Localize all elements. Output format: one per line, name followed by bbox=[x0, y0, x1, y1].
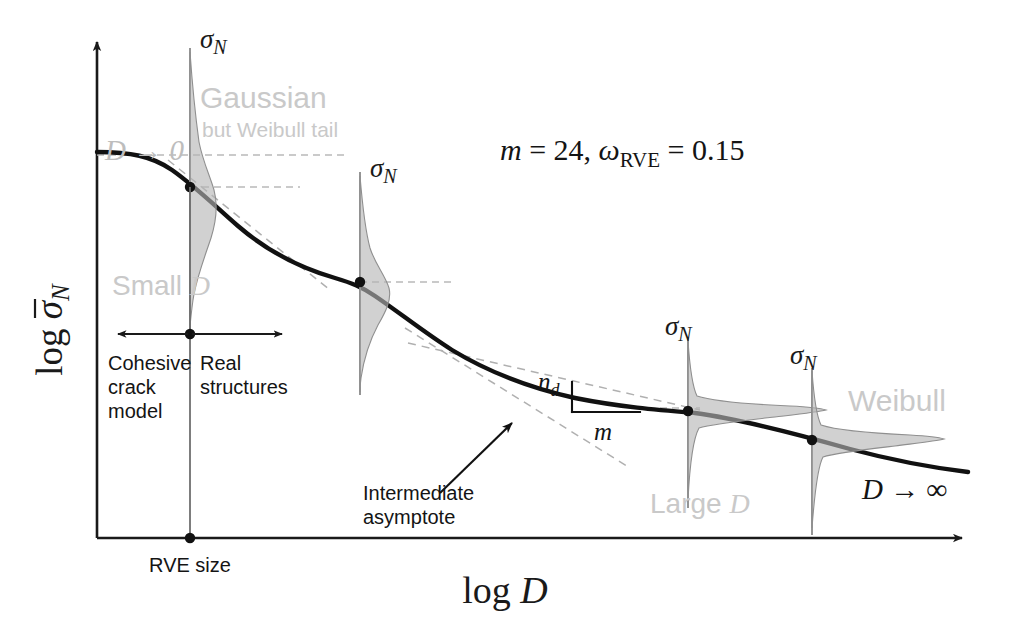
distribution-1-sigma-label: σN bbox=[200, 24, 228, 58]
small-d-label-symbol: D bbox=[189, 270, 210, 301]
dist4-sigma-sub: N bbox=[802, 352, 818, 374]
axes-group bbox=[97, 42, 962, 538]
cohesive-crack-model-line1: Cohesive bbox=[108, 352, 191, 374]
dist1-sigma-sub: N bbox=[212, 36, 228, 58]
rve-size-label: RVE size bbox=[149, 554, 231, 576]
real-structures-line2: structures bbox=[200, 376, 288, 398]
param-omega-symbol: ω bbox=[599, 133, 620, 166]
param-comma: , bbox=[584, 133, 592, 166]
intermediate-asymptote-label-line1: Intermediate bbox=[363, 482, 474, 504]
asymptotes-group bbox=[168, 160, 700, 468]
figure-canvas: log σN log D RVE size D → 0 D → ∞ Gaussi… bbox=[0, 0, 1017, 635]
intermediate-asymptote-line bbox=[405, 328, 630, 468]
size-effect-figure: log σN log D RVE size D → 0 D → ∞ Gaussi… bbox=[0, 0, 1017, 635]
large-d-label-text: Large bbox=[650, 488, 722, 519]
distribution-2-mean-dot bbox=[355, 277, 365, 287]
weibull-label: Weibull bbox=[848, 384, 946, 417]
y-axis-label-sigma-sub: N bbox=[47, 283, 74, 302]
x-axis-label: log D bbox=[462, 569, 548, 611]
y-axis-label-text: log σN bbox=[29, 283, 74, 376]
slope-rise-label: nd bbox=[538, 368, 561, 400]
x-axis-label-d: D bbox=[519, 569, 547, 611]
large-d-label: Large D bbox=[650, 488, 750, 519]
cohesive-crack-model-line2: crack bbox=[108, 376, 157, 398]
distribution-2-sigma-label: σN bbox=[370, 153, 398, 187]
gaussian-label-line1: Gaussian bbox=[200, 81, 327, 114]
param-eq1: = bbox=[529, 133, 546, 166]
cohesive-crack-model-line3: model bbox=[108, 400, 162, 422]
distribution-3-sigma-label: σN bbox=[665, 311, 693, 345]
real-structures-line1: Real bbox=[200, 352, 241, 374]
dist3-sigma-sub: N bbox=[677, 323, 693, 345]
small-limit-label: D → 0 bbox=[104, 134, 184, 166]
distribution-4-sigma-label: σN bbox=[790, 340, 818, 374]
intermediate-asymptote-label-line2: asymptote bbox=[363, 506, 455, 528]
y-axis-label: log σN bbox=[29, 283, 74, 376]
small-d-label: Small D bbox=[112, 270, 210, 301]
distribution-4-mean-dot bbox=[807, 435, 817, 445]
slope-run-label: m bbox=[594, 418, 612, 445]
dist2-sigma-sub: N bbox=[382, 165, 398, 187]
distribution-2-group bbox=[355, 172, 390, 395]
slope-rise-symbol: n bbox=[538, 368, 551, 395]
parameter-annotation: m = 24, ωRVE = 0.15 bbox=[500, 133, 745, 172]
distribution-3-mean-dot bbox=[683, 406, 693, 416]
size-effect-curve bbox=[97, 152, 968, 472]
param-m-value: 24 bbox=[554, 133, 584, 166]
param-omega-subscript: RVE bbox=[620, 148, 660, 172]
param-eq2: = bbox=[668, 133, 685, 166]
small-d-label-text: Small bbox=[112, 270, 182, 301]
param-m-symbol: m bbox=[500, 133, 522, 166]
x-axis-label-log: log bbox=[462, 569, 511, 611]
slope-rise-subscript: d bbox=[551, 380, 561, 400]
gaussian-label-line2: but Weibull tail bbox=[202, 118, 338, 141]
param-omega-value: 0.15 bbox=[692, 133, 745, 166]
large-limit-label: D → ∞ bbox=[861, 473, 947, 505]
y-axis-label-log: log bbox=[29, 328, 70, 375]
rve-axis-dot bbox=[185, 533, 195, 543]
large-d-label-symbol: D bbox=[728, 488, 749, 519]
